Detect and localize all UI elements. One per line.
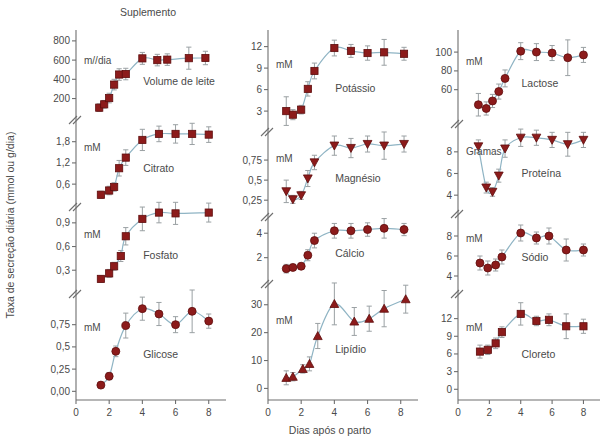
series-label-Potássio: Potássio bbox=[335, 82, 375, 94]
x-tick-label: 2 bbox=[298, 407, 304, 418]
series-label-Lactose: Lactose bbox=[521, 77, 558, 89]
x-tick-label: 6 bbox=[549, 407, 555, 418]
axis-break-mark bbox=[265, 213, 273, 221]
data-point-square bbox=[111, 81, 118, 88]
data-point-circle bbox=[532, 48, 540, 56]
y-tick-label: 0,3 bbox=[56, 265, 70, 276]
data-point-triangle-up bbox=[305, 359, 314, 367]
data-point-square bbox=[492, 340, 499, 347]
data-point-triangle-up bbox=[401, 295, 410, 303]
x-tick-label: 4 bbox=[332, 407, 338, 418]
data-point-square bbox=[347, 47, 354, 54]
data-point-circle bbox=[476, 259, 484, 267]
y-tick-label: 6 bbox=[446, 251, 452, 262]
data-point-square bbox=[533, 317, 540, 324]
series-label-Cloreto: Cloreto bbox=[521, 348, 555, 360]
data-point-square bbox=[517, 310, 524, 317]
unit-label-Cloreto: mM bbox=[466, 322, 483, 333]
data-point-square bbox=[116, 165, 123, 172]
series-label-Cálcio: Cálcio bbox=[335, 247, 364, 259]
data-point-circle bbox=[517, 229, 525, 237]
data-point-circle bbox=[474, 101, 482, 109]
axis-break-mark bbox=[455, 120, 463, 128]
unit-label-Proteína: Gramas bbox=[466, 146, 502, 157]
data-point-circle bbox=[155, 310, 163, 318]
panel-lip-dio: 0102030 bbox=[251, 283, 410, 394]
unit-label-Citrato: mM bbox=[84, 142, 101, 153]
data-point-square bbox=[476, 348, 483, 355]
data-point-circle bbox=[310, 237, 318, 245]
series-label-Fosfato: Fosfato bbox=[143, 249, 178, 261]
unit-label-Volume de leite: m//dia bbox=[84, 55, 112, 66]
panel-cloreto: 036912 bbox=[441, 303, 587, 395]
data-point-square bbox=[298, 106, 305, 113]
y-tick-label: 600 bbox=[53, 55, 70, 66]
data-point-circle bbox=[105, 372, 113, 380]
y-tick-label: 8 bbox=[446, 146, 452, 157]
data-point-circle bbox=[364, 226, 372, 234]
data-point-square bbox=[498, 329, 505, 336]
data-point-circle bbox=[297, 262, 305, 270]
series-label-Glicose: Glicose bbox=[143, 348, 178, 360]
data-point-square bbox=[172, 130, 179, 137]
panel-magn-sio: 0,250,50,75 bbox=[243, 132, 409, 221]
data-point-square bbox=[289, 111, 296, 118]
data-point-triangle-down bbox=[488, 188, 497, 196]
axis-break-mark bbox=[73, 203, 81, 211]
data-point-square bbox=[580, 323, 587, 330]
data-point-circle bbox=[579, 246, 587, 254]
panel-pot-ssio: 36912 bbox=[251, 39, 408, 136]
series-label-Proteína: Proteína bbox=[521, 167, 561, 179]
figure-panel: 02468200400600800m//diaVolume de leite0,… bbox=[0, 0, 602, 443]
data-point-circle bbox=[112, 347, 120, 355]
unit-label-Sódio: mM bbox=[466, 233, 483, 244]
data-point-square bbox=[111, 183, 118, 190]
data-point-circle bbox=[548, 49, 556, 57]
axis-break-mark bbox=[73, 116, 81, 124]
axis-break-mark bbox=[265, 128, 273, 136]
y-tick-label: 0 bbox=[446, 384, 452, 395]
series-label-Volume de leite: Volume de leite bbox=[143, 75, 215, 87]
data-point-triangle-down bbox=[494, 172, 503, 180]
series-label-Citrato: Citrato bbox=[143, 162, 174, 174]
y-axis-title: Taxa de secreção diária (mmol ou g/dia) bbox=[4, 132, 16, 319]
data-point-triangle-up bbox=[288, 372, 297, 380]
panel-glicose: 0,000,250,50,75 bbox=[51, 290, 213, 397]
data-point-square bbox=[164, 56, 171, 63]
y-tick-label: 4 bbox=[256, 228, 262, 239]
y-tick-label: 0,6 bbox=[56, 179, 70, 190]
series-label-Sódio: Sódio bbox=[521, 251, 548, 263]
data-point-square bbox=[400, 50, 407, 57]
data-point-circle bbox=[205, 317, 213, 325]
data-point-circle bbox=[97, 381, 105, 389]
y-tick-label: 1,2 bbox=[56, 157, 70, 168]
axis-break-mark bbox=[265, 280, 273, 288]
data-point-square bbox=[97, 275, 104, 282]
x-tick-label: 0 bbox=[73, 407, 79, 418]
data-point-square bbox=[304, 85, 311, 92]
data-point-circle bbox=[501, 74, 509, 82]
y-tick-label: 9 bbox=[256, 63, 262, 74]
data-point-triangle-down bbox=[516, 134, 525, 142]
multi-panel-chart: 02468200400600800m//diaVolume de leite0,… bbox=[0, 0, 602, 443]
y-tick-label: 10 bbox=[251, 355, 263, 366]
y-tick-label: 0,9 bbox=[56, 217, 70, 228]
y-tick-label: 0,75 bbox=[51, 319, 71, 330]
data-point-triangle-up bbox=[380, 304, 389, 312]
data-point-square bbox=[111, 263, 118, 270]
data-point-circle bbox=[545, 232, 553, 240]
data-point-circle bbox=[484, 264, 492, 272]
data-point-circle bbox=[347, 227, 355, 235]
data-point-square bbox=[139, 55, 146, 62]
x-tick-label: 6 bbox=[173, 407, 179, 418]
data-point-square bbox=[122, 154, 129, 161]
data-point-square bbox=[154, 57, 161, 64]
data-point-square bbox=[331, 44, 338, 51]
data-point-square bbox=[311, 67, 318, 74]
data-point-circle bbox=[482, 104, 490, 112]
y-tick-label: 6 bbox=[256, 84, 262, 95]
data-point-circle bbox=[517, 47, 525, 55]
x-tick-label: 0 bbox=[265, 407, 271, 418]
y-tick-label: 4 bbox=[446, 190, 452, 201]
y-tick-label: 800 bbox=[53, 35, 70, 46]
